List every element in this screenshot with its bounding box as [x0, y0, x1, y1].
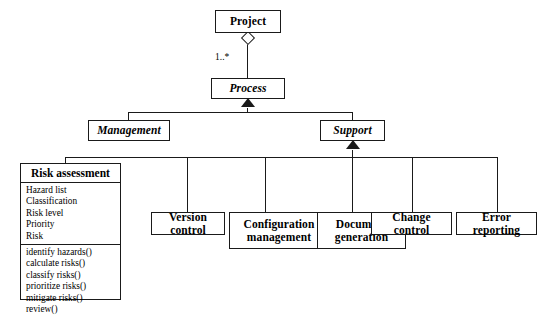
connector-bus-change-control: [412, 157, 413, 212]
operation-item: review(): [26, 304, 120, 315]
class-box-risk-assessment[interactable]: Risk assessment Hazard list Classificati…: [20, 163, 121, 300]
operation-item: calculate risks(): [26, 258, 120, 269]
class-box-change-control[interactable]: Change control: [371, 212, 452, 235]
attribute-item: Risk level: [26, 208, 120, 219]
class-box-support[interactable]: Support: [320, 120, 385, 141]
class-name-version-control: Version control: [152, 211, 224, 236]
class-name-risk-assessment: Risk assessment: [21, 164, 120, 183]
bus-support-subclasses: [65, 157, 497, 158]
connector-bus-version-control: [187, 157, 188, 212]
class-name-error-reporting: Error reporting: [457, 211, 536, 236]
connector-support-stem: [352, 150, 353, 157]
class-box-management[interactable]: Management: [88, 120, 170, 141]
connector-bus-configuration-management: [265, 157, 266, 212]
class-name-line2: management: [247, 231, 311, 243]
operation-item: identify hazards(): [26, 247, 120, 258]
operation-item: prioritize risks(): [26, 281, 120, 292]
attribute-item: Priority: [26, 219, 120, 230]
operations-compartment: identify hazards() calculate risks() cla…: [21, 245, 120, 317]
class-name-support: Support: [328, 124, 376, 136]
bus-process-subclasses: [128, 112, 352, 113]
attribute-item: Hazard list: [26, 185, 120, 196]
operation-item: classify risks(): [26, 270, 120, 281]
class-box-project[interactable]: Project: [215, 10, 281, 33]
class-box-configuration-management[interactable]: Configuration management: [229, 212, 329, 249]
class-name-management: Management: [92, 124, 166, 136]
class-box-process[interactable]: Process: [211, 78, 285, 99]
class-box-version-control[interactable]: Version control: [151, 212, 225, 235]
multiplicity-label: 1..*: [215, 52, 229, 62]
class-name-project: Project: [225, 15, 271, 27]
aggregation-diamond: [241, 31, 255, 45]
generalization-triangle-support: [346, 141, 360, 150]
attributes-compartment: Hazard list Classification Risk level Pr…: [21, 183, 120, 245]
class-name-change-control: Change control: [372, 211, 451, 236]
connector-bus-error-reporting: [497, 157, 498, 212]
connector-bus-management: [128, 112, 129, 120]
connector-bus-support: [352, 112, 353, 120]
connector-project-process: [247, 41, 248, 78]
class-name-configuration-management: Configuration management: [239, 218, 320, 243]
operation-item: mitigate risks(): [26, 293, 120, 304]
attribute-item: Classification: [26, 196, 120, 207]
class-box-error-reporting[interactable]: Error reporting: [456, 212, 537, 235]
generalization-triangle-process: [241, 99, 255, 108]
connector-bus-document-generation: [352, 157, 353, 212]
class-name-process: Process: [224, 82, 271, 94]
class-name-line1: Configuration: [244, 218, 315, 230]
attribute-item: Risk: [26, 231, 120, 242]
